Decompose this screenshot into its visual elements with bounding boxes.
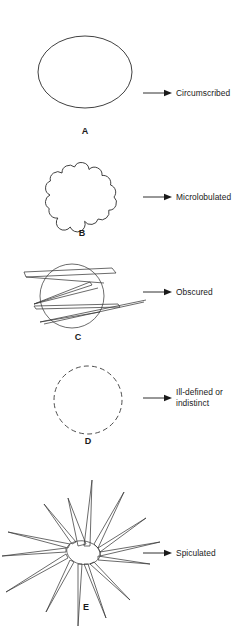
label-circumscribed: Circumscribed <box>176 88 230 99</box>
panel-letter-b: B <box>70 228 94 238</box>
circumscribed-shape <box>0 0 240 152</box>
label-ill-defined: Ill-defined orindistinct <box>176 387 238 409</box>
callout-arrow <box>143 395 172 401</box>
label-ill-defined-line2: indistinct <box>176 398 209 408</box>
panel-spiculated: E Spiculated <box>0 460 240 631</box>
panel-letter-e: E <box>74 602 98 612</box>
callout-arrow <box>143 90 172 96</box>
panel-letter-c: C <box>66 332 90 342</box>
callout-arrow <box>143 550 172 556</box>
callout-arrow <box>143 194 172 200</box>
panel-letter-d: D <box>76 436 100 446</box>
obscured-shape <box>0 252 240 356</box>
panel-circumscribed: A Circumscribed <box>0 0 240 152</box>
label-spiculated: Spiculated <box>176 548 216 559</box>
callout-arrow <box>143 289 172 295</box>
label-microlobulated: Microlobulated <box>176 192 231 203</box>
label-ill-defined-line1: Ill-defined or <box>176 387 223 397</box>
spiculated-shape <box>0 460 240 631</box>
mass-margins-figure: A Circumscribed B Microlobulated <box>0 0 240 631</box>
panel-ill-defined: D Ill-defined orindistinct <box>0 356 240 460</box>
panel-microlobulated: B Microlobulated <box>0 152 240 252</box>
panel-obscured: C Obscured <box>0 252 240 356</box>
panel-letter-a: A <box>73 126 97 136</box>
label-obscured: Obscured <box>176 287 213 298</box>
